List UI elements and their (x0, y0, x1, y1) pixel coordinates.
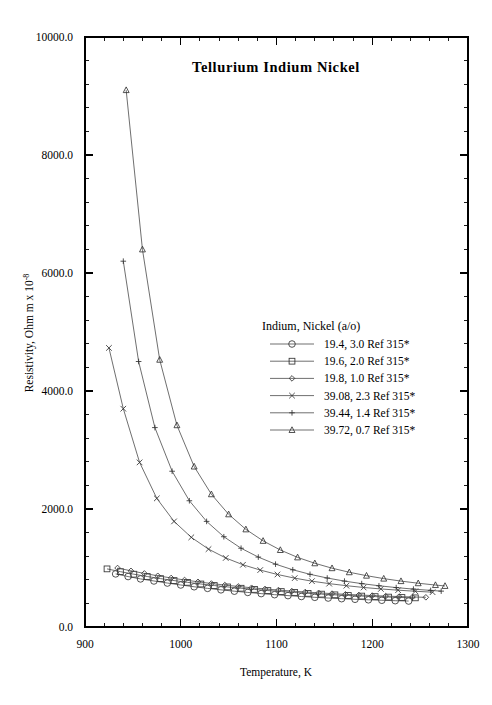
legend-title: Indium, Nickel (a/o) (262, 319, 360, 333)
legend-item-label: 39.72, 0.7 Ref 315* (324, 424, 416, 437)
x-tick-label: 900 (76, 638, 94, 650)
x-tick-label: 1300 (457, 638, 480, 650)
legend-item-label: 19.8, 1.0 Ref 315* (324, 372, 410, 385)
y-tick-label: 8000.0 (41, 149, 73, 161)
x-tick-label: 1100 (265, 638, 288, 650)
x-axis-title: Temperature, K (240, 666, 313, 679)
y-tick-label: 0.0 (59, 621, 74, 633)
y-tick-label: 4000.0 (41, 385, 73, 397)
x-tick-label: 1000 (169, 638, 192, 650)
y-axis-title-text: Resistivity, Ohm m x 10 (23, 280, 36, 392)
y-axis-title-exponent: -8 (22, 274, 31, 281)
legend-item-label: 39.08, 2.3 Ref 315* (324, 390, 416, 403)
svg-text:Resistivity, Ohm m x 10-8: Resistivity, Ohm m x 10-8 (22, 274, 36, 393)
x-tick-label: 1200 (361, 638, 384, 650)
legend-item-label: 39.44, 1.4 Ref 315* (324, 407, 416, 420)
y-tick-label: 6000.0 (41, 267, 73, 279)
chart-title: Tellurium Indium Nickel (192, 59, 360, 75)
legend-item-label: 19.6, 2.0 Ref 315* (324, 355, 410, 368)
resistivity-vs-temperature-chart: 9001000110012001300 0.02000.04000.06000.… (0, 0, 492, 705)
y-tick-label: 10000.0 (36, 31, 74, 43)
legend-item-label: 19.4, 3.0 Ref 315* (324, 338, 410, 351)
y-tick-label: 2000.0 (41, 503, 73, 515)
y-axis-title: Resistivity, Ohm m x 10-8 (22, 274, 36, 393)
